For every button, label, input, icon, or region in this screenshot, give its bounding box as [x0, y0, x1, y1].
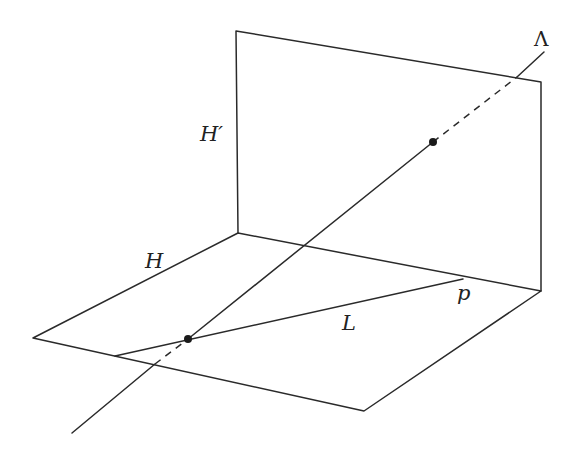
intersection-point-lambda-h	[184, 335, 192, 343]
label-l: L	[341, 311, 356, 335]
line-lambda-upper	[517, 52, 544, 77]
line-lambda-lower	[72, 364, 155, 433]
label-p: p	[457, 281, 470, 305]
intersection-point-lambda-h-prime	[429, 138, 437, 146]
vertical-plane-h-prime	[236, 31, 541, 291]
label-lambda: Λ	[533, 27, 549, 51]
label-h-prime: H′	[199, 122, 223, 146]
line-l	[115, 279, 463, 356]
geometry-figure: H′ H Λ L p	[0, 0, 584, 454]
label-h: H	[144, 249, 164, 273]
line-lambda-hidden-behind-h-prime	[433, 77, 517, 142]
